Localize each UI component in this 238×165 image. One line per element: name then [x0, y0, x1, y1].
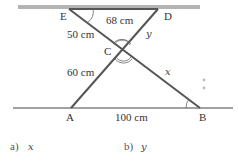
- label-AB: 100 cm: [115, 111, 148, 123]
- label-CB: x: [165, 66, 171, 77]
- angle-mark-C-bottom-1: [116, 57, 131, 61]
- point-label-E: E: [60, 10, 67, 22]
- label-ED: 68 cm: [106, 14, 134, 26]
- dot-1: [203, 79, 206, 82]
- label-AC: 60 cm: [67, 66, 95, 78]
- angle-mark-E: [88, 9, 93, 22]
- point-label-D: D: [164, 10, 172, 22]
- point-label-C: C: [104, 45, 111, 57]
- point-label-B: B: [199, 111, 206, 123]
- label-CD: y: [145, 28, 152, 39]
- question-a-prefix: a): [10, 140, 19, 153]
- segment-EB: [69, 9, 200, 108]
- similar-triangles-diagram: E D C A B 68 cm 50 cm y 60 cm x 100 cm a…: [0, 0, 238, 165]
- question-b-prefix: b): [124, 140, 134, 153]
- question-a-var: x: [28, 141, 34, 152]
- label-EC: 50 cm: [67, 28, 95, 40]
- question-b-var: y: [140, 141, 147, 152]
- point-label-A: A: [66, 111, 74, 123]
- dot-2: [203, 87, 206, 90]
